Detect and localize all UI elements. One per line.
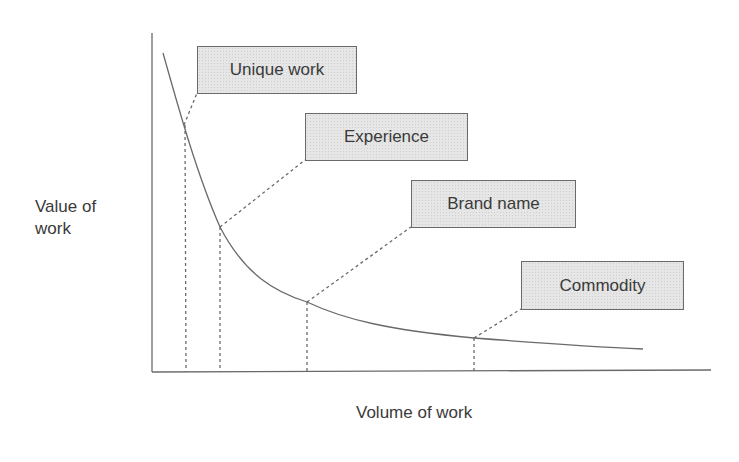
value-volume-diagram: [0, 0, 739, 462]
unique-work-label: Unique work: [230, 60, 325, 80]
brand-name-label: Brand name: [447, 194, 540, 214]
y-axis-label-line-1: Value of: [35, 196, 96, 218]
unique-work-box: Unique work: [197, 46, 357, 94]
experience-leader: [220, 160, 305, 227]
commodity-label: Commodity: [560, 276, 646, 296]
y-axis-label: Value of work: [35, 196, 96, 240]
brand-name-box: Brand name: [411, 180, 576, 228]
brand-name-leader: [307, 227, 411, 302]
unique-work-drop-line: [185, 125, 186, 372]
commodity-box: Commodity: [521, 261, 684, 310]
x-axis: [152, 370, 711, 372]
x-axis-label: Volume of work: [356, 402, 472, 424]
unique-work-leader: [184, 93, 197, 125]
y-axis-label-line-2: work: [35, 218, 96, 240]
experience-label: Experience: [344, 127, 429, 147]
experience-box: Experience: [305, 113, 468, 161]
commodity-leader: [474, 309, 521, 338]
